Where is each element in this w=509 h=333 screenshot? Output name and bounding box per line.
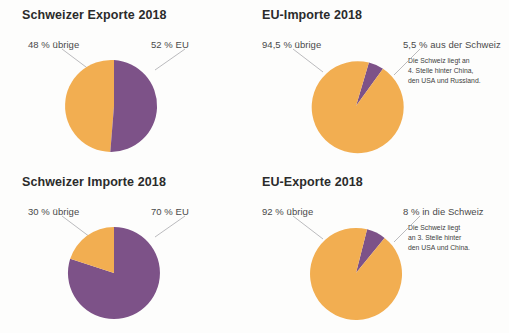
chart-panel-schweizer-exporte: Schweizer Exporte 2018 48 % übrige 52 % … (0, 0, 254, 166)
slice-label-uebrige: 48 % übrige (28, 39, 79, 50)
leader-line-right (155, 49, 185, 70)
chart-title: Schweizer Exporte 2018 (22, 8, 167, 22)
slice-label-eu: 70 % EU (151, 206, 189, 217)
pie-chart-grid: Schweizer Exporte 2018 48 % übrige 52 % … (0, 0, 509, 333)
pie-slice-eu (68, 227, 160, 319)
chart-title: EU-Exporte 2018 (262, 175, 363, 189)
pie-slice-eu (110, 60, 157, 152)
slice-label-uebrige: 92 % übrige (262, 206, 313, 217)
slice-label-in-die-schweiz: 8 % in die Schweiz (403, 206, 484, 217)
leader-line-left (62, 216, 90, 237)
slice-label-aus-der-schweiz: 5,5 % aus der Schweiz (403, 39, 501, 50)
pie-slice-schweiz (356, 63, 383, 106)
chart-panel-eu-importe: EU-Importe 2018 94,5 % übrige 5,5 % aus … (255, 0, 509, 166)
chart-annotation: Die Schweiz liegt an 4. Stelle hinter Ch… (408, 56, 481, 86)
leader-line-left (293, 49, 323, 72)
slice-label-uebrige: 30 % übrige (28, 206, 79, 217)
leader-line-left (293, 216, 323, 239)
pie-graphic (255, 167, 509, 333)
chart-panel-eu-exporte: EU-Exporte 2018 92 % übrige 8 % in die S… (255, 167, 509, 333)
pie-svg (255, 167, 509, 333)
pie-slice-uebrige (70, 227, 114, 273)
chart-annotation: Die Schweiz liegt an 3. Stelle hinter de… (408, 223, 470, 253)
chart-title: EU-Importe 2018 (262, 8, 362, 22)
chart-title: Schweizer Importe 2018 (22, 175, 166, 189)
pie-slice-uebrige (65, 60, 114, 152)
pie-graphic (0, 167, 254, 333)
chart-panel-schweizer-importe: Schweizer Importe 2018 30 % übrige 70 % … (0, 167, 254, 333)
pie-svg (0, 167, 254, 333)
pie-graphic (0, 0, 254, 166)
slice-label-eu: 52 % EU (151, 39, 189, 50)
leader-line-left (62, 49, 90, 70)
pie-slice-schweiz (356, 229, 385, 273)
pie-slice-uebrige (312, 61, 404, 153)
slice-label-uebrige: 94,5 % übrige (262, 39, 321, 50)
pie-svg (0, 0, 254, 166)
leader-line-right (155, 216, 185, 237)
pie-slice-uebrige (310, 228, 402, 320)
